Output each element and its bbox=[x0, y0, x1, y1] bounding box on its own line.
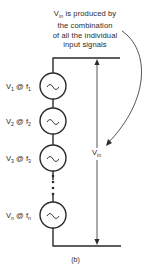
ellipsis-dot bbox=[52, 181, 55, 184]
arrow-down-icon bbox=[95, 239, 100, 245]
circuit-drawing bbox=[0, 0, 151, 271]
source-icon-n bbox=[40, 202, 66, 228]
figure-label: (b) bbox=[0, 256, 151, 263]
top-rail bbox=[53, 58, 120, 73]
source-label-2: V2 @ f2 bbox=[6, 117, 31, 129]
vin-label: Vin bbox=[92, 148, 101, 160]
bottom-rail bbox=[53, 228, 121, 246]
ellipsis-dot bbox=[52, 187, 55, 190]
arrow-up-icon bbox=[95, 59, 100, 65]
ellipsis-dot bbox=[52, 175, 55, 178]
source-label-3: V3 @ f3 bbox=[6, 154, 31, 166]
ellipsis-dot bbox=[52, 193, 55, 196]
annotation-curve bbox=[108, 31, 142, 143]
source-icon-3 bbox=[40, 145, 66, 171]
source-label-1: V1 @ f1 bbox=[6, 82, 31, 94]
source-label-n: Vn @ fn bbox=[6, 211, 31, 223]
source-icon-1 bbox=[40, 73, 66, 99]
source-icon-2 bbox=[40, 108, 66, 134]
